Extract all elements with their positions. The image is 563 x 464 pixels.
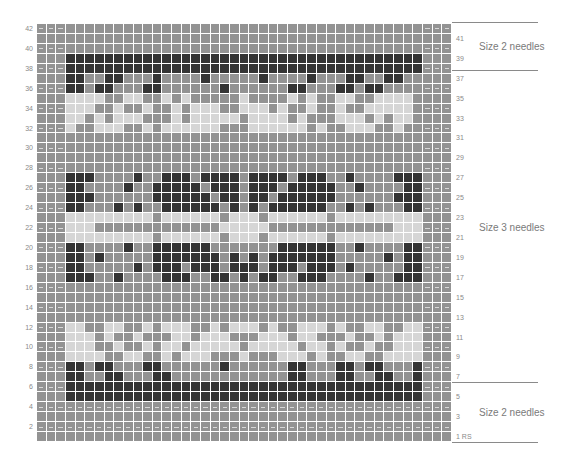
stitch-cell xyxy=(37,203,47,213)
stitch-cell xyxy=(105,283,115,293)
stitch-cell xyxy=(355,342,365,352)
dash-mark xyxy=(435,427,439,428)
stitch-cell xyxy=(66,422,76,432)
stitch-cell xyxy=(162,104,172,114)
stitch-cell xyxy=(269,173,279,183)
stitch-cell xyxy=(240,34,250,44)
stitch-cell xyxy=(269,153,279,163)
stitch-cell xyxy=(307,362,317,372)
stitch-cell xyxy=(298,402,308,412)
stitch-cell xyxy=(153,382,163,392)
stitch-cell xyxy=(384,54,394,64)
stitch-cell xyxy=(365,392,375,402)
stitch-cell xyxy=(95,303,105,313)
row-number-right: 31 xyxy=(456,134,464,142)
stitch-cell xyxy=(423,233,433,243)
stitch-cell xyxy=(423,293,433,303)
stitch-cell xyxy=(182,74,192,84)
stitch-cell xyxy=(433,114,443,124)
stitch-cell xyxy=(134,352,144,362)
stitch-cell xyxy=(442,203,452,213)
stitch-cell xyxy=(413,183,423,193)
stitch-cell xyxy=(191,303,201,313)
stitch-cell xyxy=(211,183,221,193)
stitch-cell xyxy=(346,402,356,412)
stitch-cell xyxy=(355,173,365,183)
row-number-left: 20 xyxy=(0,244,33,252)
dash-mark xyxy=(396,407,400,408)
stitch-cell xyxy=(85,402,95,412)
stitch-cell xyxy=(191,352,201,362)
stitch-cell xyxy=(85,153,95,163)
section-divider-bottom xyxy=(452,442,538,443)
stitch-cell xyxy=(172,133,182,143)
stitch-cell xyxy=(346,133,356,143)
stitch-cell xyxy=(162,193,172,203)
stitch-cell xyxy=(114,432,124,442)
stitch-cell xyxy=(288,44,298,54)
stitch-cell xyxy=(269,323,279,333)
dash-mark xyxy=(39,88,43,89)
stitch-cell xyxy=(298,163,308,173)
dash-mark xyxy=(435,307,439,308)
stitch-cell xyxy=(124,133,134,143)
stitch-cell xyxy=(162,392,172,402)
dash-mark xyxy=(445,48,449,49)
stitch-cell xyxy=(85,34,95,44)
stitch-cell xyxy=(346,303,356,313)
stitch-cell xyxy=(375,223,385,233)
stitch-cell xyxy=(269,223,279,233)
stitch-cell xyxy=(37,84,47,94)
stitch-cell xyxy=(230,233,240,243)
stitch-cell xyxy=(85,213,95,223)
stitch-cell xyxy=(413,34,423,44)
row-number-right: 11 xyxy=(456,334,463,342)
stitch-cell xyxy=(182,342,192,352)
stitch-cell xyxy=(365,283,375,293)
stitch-cell xyxy=(307,203,317,213)
stitch-cell xyxy=(105,263,115,273)
stitch-cell xyxy=(105,243,115,253)
stitch-cell xyxy=(413,213,423,223)
stitch-cell xyxy=(307,352,317,362)
stitch-cell xyxy=(259,362,269,372)
stitch-cell xyxy=(95,333,105,343)
stitch-cell xyxy=(153,372,163,382)
stitch-cell xyxy=(317,44,327,54)
stitch-cell xyxy=(143,94,153,104)
stitch-cell xyxy=(66,183,76,193)
stitch-cell xyxy=(56,54,66,64)
stitch-cell xyxy=(375,193,385,203)
stitch-cell xyxy=(240,133,250,143)
stitch-cell xyxy=(259,313,269,323)
stitch-cell xyxy=(201,233,211,243)
row-number-right: 41 xyxy=(456,35,464,43)
stitch-cell xyxy=(384,173,394,183)
stitch-cell xyxy=(56,323,66,333)
stitch-cell xyxy=(404,263,414,273)
stitch-cell xyxy=(336,114,346,124)
stitch-cell xyxy=(259,303,269,313)
stitch-cell xyxy=(355,143,365,153)
stitch-cell xyxy=(172,372,182,382)
stitch-cell xyxy=(269,24,279,34)
dash-mark xyxy=(194,407,198,408)
stitch-cell xyxy=(211,74,221,84)
stitch-cell xyxy=(66,352,76,362)
stitch-cell xyxy=(355,24,365,34)
stitch-cell xyxy=(134,84,144,94)
stitch-cell xyxy=(413,283,423,293)
stitch-cell xyxy=(220,94,230,104)
stitch-cell xyxy=(307,293,317,303)
stitch-cell xyxy=(327,313,337,323)
stitch-cell xyxy=(269,203,279,213)
stitch-cell xyxy=(249,293,259,303)
stitch-cell xyxy=(249,392,259,402)
stitch-cell xyxy=(375,432,385,442)
stitch-cell xyxy=(114,382,124,392)
stitch-cell xyxy=(162,303,172,313)
stitch-cell xyxy=(191,362,201,372)
stitch-cell xyxy=(162,333,172,343)
stitch-cell xyxy=(394,203,404,213)
stitch-cell xyxy=(346,54,356,64)
